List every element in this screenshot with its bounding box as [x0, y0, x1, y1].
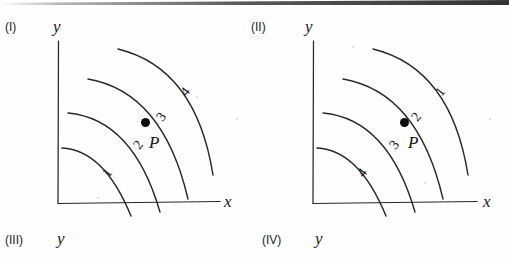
- panel-III-y-axis-label: y: [57, 229, 65, 249]
- scan-speck: [97, 197, 99, 199]
- scan-speck: [352, 46, 354, 48]
- scan-speck: [236, 118, 238, 120]
- panel-II-x-axis: [313, 202, 477, 204]
- panel-II-point-marker: [400, 118, 409, 127]
- panel-II-graphics: [0, 0, 509, 258]
- scan-speck: [424, 182, 426, 184]
- figure-page: (I) y x P 1 2 3 4 (II) y x: [0, 0, 509, 258]
- scan-speck: [489, 118, 491, 120]
- panel-II-contour-1: [373, 49, 468, 175]
- panel-II-contour-3: [323, 113, 415, 212]
- panel-II-y-axis: [313, 41, 314, 203]
- panel-II-point-label: P: [408, 133, 418, 153]
- panel-IV-roman-label: (IV): [262, 233, 281, 247]
- panel-III-roman-label: (III): [5, 233, 23, 247]
- scan-speck: [196, 96, 198, 98]
- panel-IV-y-axis-label: y: [315, 229, 323, 249]
- panel-II-contour-4: [317, 148, 386, 216]
